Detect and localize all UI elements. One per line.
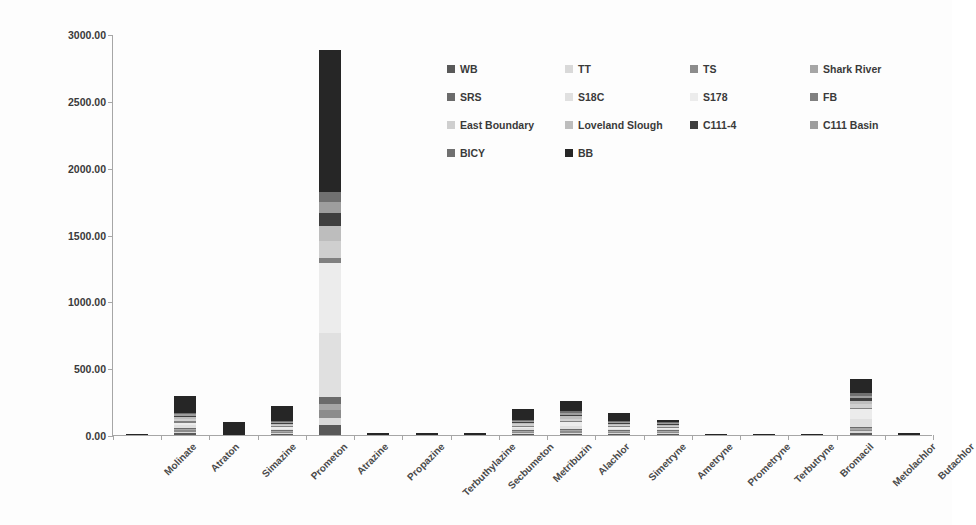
bar-segment[interactable] bbox=[608, 434, 630, 435]
bar-segment[interactable] bbox=[271, 406, 293, 421]
legend-item[interactable]: BB bbox=[565, 148, 690, 159]
x-axis-tick-label: Terbuthylazine bbox=[460, 441, 517, 498]
bar-stack[interactable] bbox=[319, 50, 341, 435]
legend-swatch-icon bbox=[810, 121, 818, 129]
bar-segment[interactable] bbox=[850, 419, 872, 427]
bar-segment[interactable] bbox=[319, 241, 341, 258]
bar-stack[interactable] bbox=[416, 433, 438, 435]
bar-stack[interactable] bbox=[705, 434, 727, 435]
bar-stack[interactable] bbox=[801, 434, 823, 435]
bar-stack[interactable] bbox=[608, 413, 630, 435]
legend-item[interactable]: S178 bbox=[690, 92, 810, 103]
bar-segment[interactable] bbox=[271, 434, 293, 435]
legend-swatch-icon bbox=[447, 121, 455, 129]
legend-label: S18C bbox=[578, 92, 604, 103]
legend-item[interactable]: WB bbox=[447, 64, 565, 75]
legend-item[interactable]: Loveland Slough bbox=[565, 120, 690, 131]
y-axis-tick-labels: 0.00500.001000.001500.002000.002500.0030… bbox=[34, 0, 106, 525]
legend-swatch-icon bbox=[447, 149, 455, 157]
legend-swatch-icon bbox=[565, 93, 573, 101]
legend-swatch-icon bbox=[690, 65, 698, 73]
bar-segment[interactable] bbox=[850, 409, 872, 418]
legend-swatch-icon bbox=[565, 149, 573, 157]
bar-stack[interactable] bbox=[512, 409, 534, 435]
bar-segment[interactable] bbox=[174, 396, 196, 413]
legend-swatch-icon bbox=[810, 65, 818, 73]
bar-segment[interactable] bbox=[319, 418, 341, 425]
bar-segment[interactable] bbox=[223, 422, 245, 435]
bar-stack[interactable] bbox=[223, 422, 245, 435]
legend-label: FB bbox=[823, 92, 837, 103]
bar-segment[interactable] bbox=[657, 434, 679, 435]
legend-swatch-icon bbox=[447, 93, 455, 101]
x-axis-tick-label: Bromacil bbox=[838, 441, 876, 479]
legend-item[interactable]: TT bbox=[565, 64, 690, 75]
bar-segment[interactable] bbox=[319, 425, 341, 435]
bar-segment[interactable] bbox=[464, 433, 486, 435]
legend-item[interactable]: East Boundary bbox=[447, 120, 565, 131]
bar-stack[interactable] bbox=[560, 401, 582, 435]
legend-item[interactable]: C111 Basin bbox=[810, 120, 940, 131]
bar-segment[interactable] bbox=[705, 434, 727, 435]
legend-label: Shark River bbox=[823, 64, 881, 75]
legend-item[interactable]: TS bbox=[690, 64, 810, 75]
bar-stack[interactable] bbox=[657, 420, 679, 435]
legend-item[interactable]: BICY bbox=[447, 148, 565, 159]
bar-segment[interactable] bbox=[319, 410, 341, 418]
bar-segment[interactable] bbox=[174, 433, 196, 435]
legend-item[interactable]: C111-4 bbox=[690, 120, 810, 131]
bar-segment[interactable] bbox=[850, 379, 872, 393]
legend-item[interactable]: FB bbox=[810, 92, 940, 103]
legend-item[interactable]: Shark River bbox=[810, 64, 940, 75]
bar-segment[interactable] bbox=[319, 263, 341, 333]
legend-label: TS bbox=[703, 64, 716, 75]
x-axis-tick-label: Ametryne bbox=[694, 441, 734, 481]
bar-segment[interactable] bbox=[753, 434, 775, 435]
bar-segment[interactable] bbox=[850, 433, 872, 435]
bar-segment[interactable] bbox=[319, 202, 341, 213]
x-axis-tick-label: Prometryne bbox=[745, 441, 792, 488]
bar-segment[interactable] bbox=[560, 401, 582, 412]
bar-stack[interactable] bbox=[174, 396, 196, 435]
bar-stack[interactable] bbox=[271, 406, 293, 435]
legend-label: East Boundary bbox=[460, 120, 534, 131]
bar-segment[interactable] bbox=[319, 333, 341, 397]
x-axis-tick-label: Molinate bbox=[162, 441, 198, 477]
bar-segment[interactable] bbox=[608, 413, 630, 421]
x-axis-tick-label: Terbutryne bbox=[792, 441, 836, 485]
bar-stack[interactable] bbox=[850, 379, 872, 435]
bar-segment[interactable] bbox=[898, 433, 920, 435]
bar-stack[interactable] bbox=[464, 433, 486, 435]
y-axis-tick-label: 2000.00 bbox=[36, 163, 106, 175]
bar-stack[interactable] bbox=[126, 434, 148, 435]
bar-segment[interactable] bbox=[801, 434, 823, 435]
bar-segment[interactable] bbox=[319, 226, 341, 241]
x-axis-tick-label: Metolachlor bbox=[890, 441, 937, 488]
legend-swatch-icon bbox=[690, 121, 698, 129]
bar-segment[interactable] bbox=[416, 433, 438, 435]
legend-item[interactable]: SRS bbox=[447, 92, 565, 103]
legend-label: S178 bbox=[703, 92, 728, 103]
bar-stack[interactable] bbox=[753, 434, 775, 435]
bar-segment[interactable] bbox=[319, 213, 341, 226]
bar-segment[interactable] bbox=[367, 433, 389, 435]
x-axis-tick-label: Prometon bbox=[308, 441, 349, 482]
legend-label: C111 Basin bbox=[823, 120, 878, 131]
legend-item[interactable]: S18C bbox=[565, 92, 690, 103]
y-axis-tick-label: 0.00 bbox=[36, 430, 106, 442]
y-axis-tick-label: 1500.00 bbox=[36, 230, 106, 242]
bar-segment[interactable] bbox=[319, 192, 341, 201]
bar-segment[interactable] bbox=[512, 409, 534, 420]
x-axis-tick-label: Atrazine bbox=[355, 441, 391, 477]
bar-segment[interactable] bbox=[319, 397, 341, 404]
y-axis-title-container: Sum of Concentrations (ng/L) bbox=[10, 35, 28, 436]
x-axis-tick-label: Atraton bbox=[209, 441, 242, 474]
bar-stack[interactable] bbox=[898, 433, 920, 435]
bar-stack[interactable] bbox=[367, 433, 389, 435]
bar-segment[interactable] bbox=[512, 434, 534, 435]
bar-segment[interactable] bbox=[560, 434, 582, 435]
bar-segment[interactable] bbox=[319, 50, 341, 192]
legend-swatch-icon bbox=[690, 93, 698, 101]
bar-segment[interactable] bbox=[126, 434, 148, 435]
